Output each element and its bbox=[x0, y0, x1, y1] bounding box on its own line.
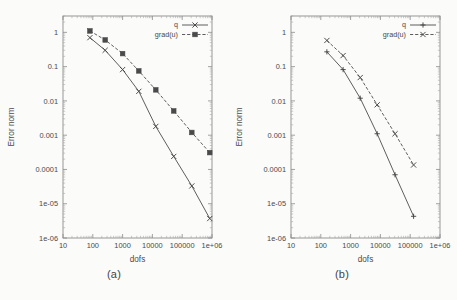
x-tick-label: 10 bbox=[59, 241, 67, 250]
y-tick-label: 0.001 bbox=[40, 131, 59, 140]
plot-frame bbox=[63, 16, 212, 238]
data-point-marker bbox=[87, 35, 92, 40]
panel-caption-a: (a) bbox=[0, 268, 228, 280]
series-gradu bbox=[324, 38, 416, 168]
y-tick-label: 0.001 bbox=[268, 131, 287, 140]
data-point-marker bbox=[324, 38, 329, 43]
series-line bbox=[90, 38, 210, 219]
convergence-plot-a: 101001000100001000001e+061e-061e-050.000… bbox=[0, 0, 228, 268]
y-tick-label: 1e-05 bbox=[39, 199, 58, 208]
x-tick-label: 100000 bbox=[398, 241, 423, 250]
data-point-marker bbox=[137, 69, 142, 74]
x-tick-label: 1000 bbox=[342, 241, 358, 250]
x-tick-label: 1e+06 bbox=[430, 241, 451, 250]
y-axis-title: Error norm bbox=[7, 107, 16, 146]
data-point-marker bbox=[120, 67, 125, 72]
legend: qgrad(u) bbox=[155, 20, 208, 39]
y-tick-label: 1e-06 bbox=[39, 234, 58, 243]
plot-panel-a: 101001000100001000001e+061e-061e-050.000… bbox=[0, 0, 228, 300]
y-tick-label: 0.01 bbox=[44, 97, 58, 106]
data-point-marker bbox=[189, 183, 194, 188]
y-tick-label: 1 bbox=[282, 28, 286, 37]
data-point-marker bbox=[136, 89, 141, 94]
plot-frame bbox=[291, 16, 440, 238]
legend: qgrad(u) bbox=[383, 20, 436, 39]
x-tick-label: 100000 bbox=[170, 241, 195, 250]
data-point-marker bbox=[171, 154, 176, 159]
data-point-marker bbox=[411, 214, 416, 219]
y-tick-label: 1 bbox=[54, 28, 58, 37]
y-tick-label: 0.0001 bbox=[35, 165, 58, 174]
convergence-figure: 101001000100001000001e+061e-061e-050.000… bbox=[0, 0, 457, 300]
data-point-marker bbox=[171, 109, 176, 114]
data-point-marker bbox=[120, 51, 125, 56]
data-point-marker bbox=[392, 131, 397, 136]
data-point-marker bbox=[193, 32, 198, 37]
data-point-marker bbox=[358, 75, 363, 80]
legend-label-gradu: grad(u) bbox=[155, 30, 178, 39]
y-tick-label: 0.01 bbox=[272, 97, 286, 106]
x-tick-label: 10000 bbox=[142, 241, 163, 250]
series-line bbox=[327, 40, 414, 165]
data-point-marker bbox=[411, 162, 416, 167]
y-tick-label: 1e-05 bbox=[267, 199, 286, 208]
legend-label-q: q bbox=[402, 20, 406, 29]
data-point-marker bbox=[340, 53, 345, 58]
convergence-plot-b: 101001000100001000001e+061e-061e-050.000… bbox=[228, 0, 456, 268]
x-tick-label: 100 bbox=[87, 241, 99, 250]
series-line bbox=[327, 52, 414, 216]
x-axis-title: dofs bbox=[358, 255, 373, 264]
x-tick-label: 100 bbox=[315, 241, 327, 250]
data-point-marker bbox=[103, 38, 108, 43]
series-q bbox=[87, 35, 212, 221]
y-axis-title: Error norm bbox=[235, 107, 244, 146]
legend-label-q: q bbox=[174, 20, 178, 29]
y-tick-label: 0.1 bbox=[276, 62, 286, 71]
legend-label-gradu: grad(u) bbox=[383, 30, 406, 39]
x-tick-label: 10000 bbox=[370, 241, 391, 250]
data-point-marker bbox=[153, 88, 158, 93]
data-point-marker bbox=[375, 102, 380, 107]
x-tick-label: 10 bbox=[287, 241, 295, 250]
panel-caption-b: (b) bbox=[228, 268, 456, 280]
x-axis-title: dofs bbox=[130, 255, 145, 264]
data-point-marker bbox=[375, 131, 380, 136]
data-point-marker bbox=[392, 172, 397, 177]
x-tick-label: 1000 bbox=[114, 241, 130, 250]
series-gradu bbox=[88, 29, 212, 155]
data-point-marker bbox=[190, 130, 195, 135]
y-tick-label: 0.0001 bbox=[263, 165, 286, 174]
data-point-marker bbox=[103, 48, 108, 53]
y-tick-label: 0.1 bbox=[48, 62, 58, 71]
x-tick-label: 1e+06 bbox=[202, 241, 223, 250]
data-point-marker bbox=[207, 150, 212, 155]
data-point-marker bbox=[358, 96, 363, 101]
plot-panel-b: 101001000100001000001e+061e-061e-050.000… bbox=[228, 0, 456, 300]
data-point-marker bbox=[88, 29, 93, 34]
series-q bbox=[324, 49, 416, 219]
data-point-marker bbox=[153, 124, 158, 129]
y-tick-label: 1e-06 bbox=[267, 234, 286, 243]
data-point-marker bbox=[420, 22, 425, 27]
